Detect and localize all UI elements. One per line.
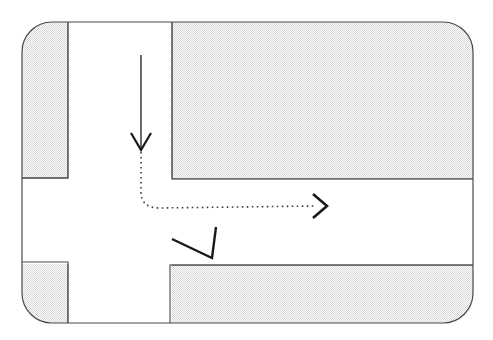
road-vertical (69, 16, 172, 329)
block-bottom-middle-right (170, 265, 479, 329)
figure-root: Road intersection manoeuvre diagram vehi… (0, 0, 493, 340)
road-horizontal (16, 179, 479, 264)
road-intersection-diagram (0, 0, 493, 340)
scene-contents (16, 16, 479, 329)
block-bottom-left (16, 262, 68, 329)
block-top-middle-right (172, 16, 479, 179)
